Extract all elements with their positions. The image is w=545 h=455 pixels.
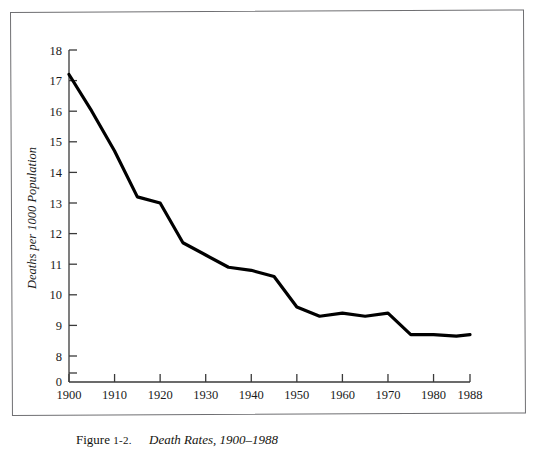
x-tick-label-1980: 1980 <box>421 388 446 402</box>
x-tick-label-1950: 1950 <box>284 388 309 402</box>
y-tick-label-14: 14 <box>50 166 63 180</box>
y-axis-origin-label: 0 <box>56 375 62 389</box>
y-tick-label-12: 12 <box>50 227 63 241</box>
death-rates-line-chart: 89101112131415161718 1900191019201930194… <box>0 0 545 420</box>
y-tick-label-16: 16 <box>50 105 63 119</box>
y-tick-label-11: 11 <box>50 258 62 272</box>
x-tick-label-1930: 1930 <box>193 388 218 402</box>
death-rate-series-line <box>69 74 470 336</box>
y-tick-label-13: 13 <box>50 197 63 211</box>
y-axis-ticks <box>69 50 77 373</box>
y-tick-label-8: 8 <box>56 350 62 364</box>
figure-caption: Figure 1-2. Death Rates, 1900–1988 <box>76 432 516 448</box>
y-tick-label-10: 10 <box>50 288 63 302</box>
caption-figure-number: 1-2. <box>113 434 132 446</box>
x-tick-label-1910: 1910 <box>102 388 127 402</box>
scanned-page: 89101112131415161718 1900191019201930194… <box>0 0 545 455</box>
y-axis-tick-labels: 89101112131415161718 <box>50 44 63 364</box>
caption-figure-word: Figure <box>76 432 110 447</box>
x-tick-label-1940: 1940 <box>239 388 264 402</box>
y-tick-label-17: 17 <box>50 74 63 88</box>
x-tick-label-1970: 1970 <box>375 388 400 402</box>
caption-figure-title: Death Rates, 1900–1988 <box>149 432 278 447</box>
x-tick-label-1960: 1960 <box>330 388 355 402</box>
x-axis-tick-labels: 1900191019201930194019501960197019801988 <box>57 388 483 402</box>
y-tick-label-18: 18 <box>50 44 63 58</box>
x-tick-label-1988: 1988 <box>458 388 483 402</box>
x-tick-label-1920: 1920 <box>148 388 173 402</box>
y-axis-title: Deaths per 1000 Population <box>25 147 39 290</box>
figure-plot-area: 89101112131415161718 1900191019201930194… <box>0 0 545 420</box>
x-axis-ticks <box>69 374 470 382</box>
x-tick-label-1900: 1900 <box>57 388 82 402</box>
y-tick-label-9: 9 <box>56 319 62 333</box>
y-tick-label-15: 15 <box>50 135 63 149</box>
